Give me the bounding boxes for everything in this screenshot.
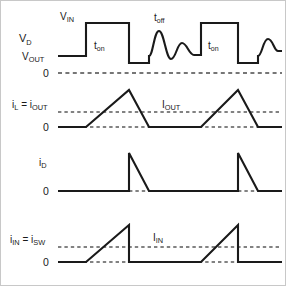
vd-waveform [58,23,282,63]
level-label-vin: VIN [60,11,74,24]
annotation-iout-average: IOUT [162,99,181,112]
annotation-iin-average: IIN [153,232,163,245]
annotation-toff: toff [154,12,164,24]
panel-vd [58,23,282,73]
panel-iin [58,225,282,262]
iin-waveform [58,225,282,262]
axis-label-iin: iIN = iSW [10,234,45,247]
axis-label-il: iL = iOUT [12,99,48,112]
level-label-vout: VOUT [22,51,45,64]
axis-label-vd: VD [19,32,32,47]
id-waveform [58,153,282,191]
waveform-canvas: VD VIN VOUT 0 ton toff ton iL = iOUT 0 I… [1,1,286,286]
level-label-zero-vd: 0 [43,67,49,79]
axis-label-id: iD [39,157,47,170]
annotation-ton-1: ton [94,40,105,52]
level-label-zero-id: 0 [43,185,49,197]
annotation-ton-2: ton [208,40,219,52]
panel-id [58,153,282,191]
waveform-figure: VD VIN VOUT 0 ton toff ton iL = iOUT 0 I… [0,0,286,286]
level-label-zero-il: 0 [43,121,49,133]
level-label-zero-iin: 0 [43,256,49,268]
